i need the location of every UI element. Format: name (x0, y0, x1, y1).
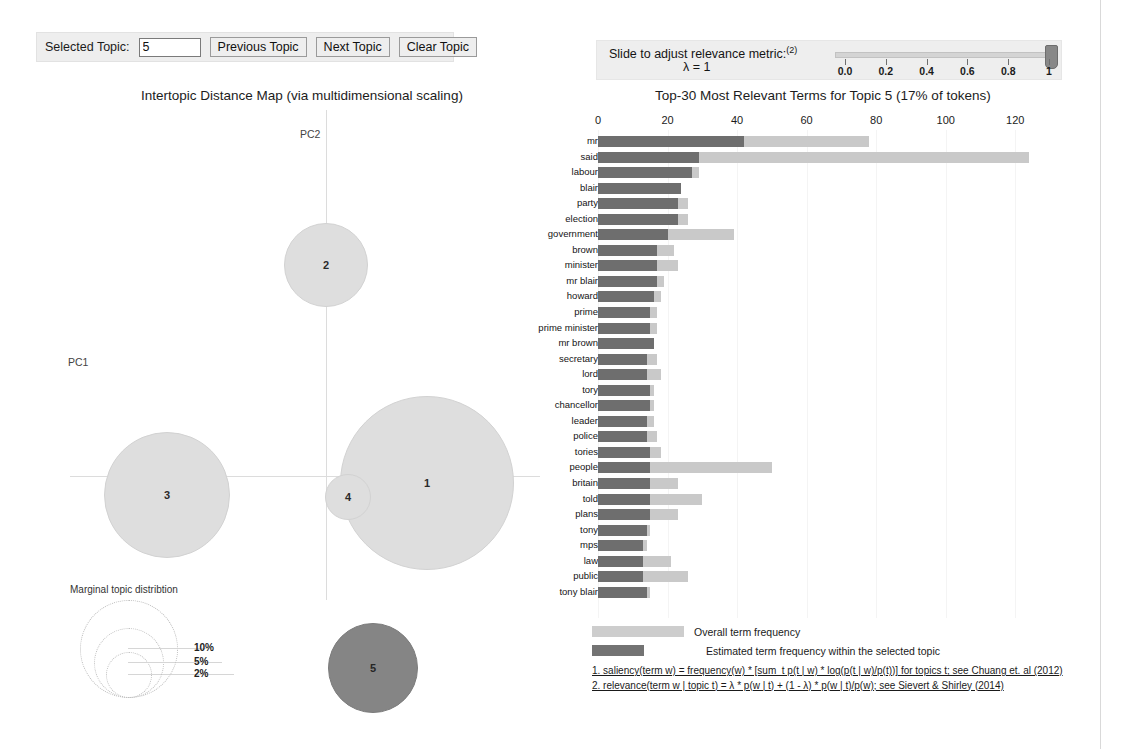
bar-chart-row[interactable]: mr (530, 134, 1090, 150)
term-label[interactable]: labour (458, 166, 598, 177)
bar-topic-frequency (598, 587, 647, 598)
bar-group (598, 431, 1050, 442)
term-label[interactable]: tony blair (458, 586, 598, 597)
term-label[interactable]: minister (458, 259, 598, 270)
legend-item-overall: Overall term frequency (592, 622, 1092, 641)
bar-chart-row[interactable]: tony blair (530, 585, 1090, 601)
pc2-axis-label: PC2 (300, 128, 320, 140)
bar-topic-frequency (598, 525, 647, 536)
bar-group (598, 462, 1050, 473)
bar-chart-row[interactable]: brown (530, 243, 1090, 259)
bar-chart-row[interactable]: mps (530, 538, 1090, 554)
bar-chart-row[interactable]: plans (530, 507, 1090, 523)
term-label[interactable]: britain (458, 477, 598, 488)
term-label[interactable]: prime (458, 306, 598, 317)
topic-bubble-2[interactable]: 2 (284, 223, 368, 307)
legend-label-selected: Estimated term frequency within the sele… (706, 645, 940, 657)
term-label[interactable]: lord (458, 368, 598, 379)
bar-chart-x-tick-label: 120 (1006, 114, 1024, 126)
bar-chart-row[interactable]: public (530, 569, 1090, 585)
bar-chart-x-tick-label: 20 (661, 114, 673, 126)
bar-chart-row[interactable]: told (530, 492, 1090, 508)
bar-topic-frequency (598, 369, 647, 380)
bar-chart-row[interactable]: lord (530, 367, 1090, 383)
bar-group (598, 214, 1050, 225)
marginal-legend-label: 2% (194, 668, 208, 679)
bar-chart-row[interactable]: tory (530, 383, 1090, 399)
bar-chart-row[interactable]: howard (530, 289, 1090, 305)
bar-chart-x-tick-label: 100 (937, 114, 955, 126)
previous-topic-button[interactable]: Previous Topic (210, 37, 307, 57)
bar-group (598, 587, 1050, 598)
panel-divider (1100, 0, 1101, 749)
bar-topic-frequency (598, 198, 678, 209)
term-label[interactable]: police (458, 430, 598, 441)
bar-group (598, 494, 1050, 505)
bar-chart-row[interactable]: secretary (530, 352, 1090, 368)
term-label[interactable]: mr (458, 135, 598, 146)
next-topic-button[interactable]: Next Topic (316, 37, 390, 57)
term-label[interactable]: leader (458, 415, 598, 426)
term-label[interactable]: prime minister (458, 322, 598, 333)
saliency-formula-note[interactable]: 1. saliency(term w) = frequency(w) * [su… (592, 664, 1063, 679)
bar-topic-frequency (598, 167, 692, 178)
bar-chart-row[interactable]: prime (530, 305, 1090, 321)
term-label[interactable]: party (458, 197, 598, 208)
term-label[interactable]: public (458, 570, 598, 581)
bar-group (598, 276, 1050, 287)
bar-chart-row[interactable]: chancellor (530, 398, 1090, 414)
term-label[interactable]: government (458, 228, 598, 239)
bar-group (598, 229, 1050, 240)
term-label[interactable]: told (458, 493, 598, 504)
relevance-slider-track[interactable] (835, 52, 1051, 58)
bar-chart-row[interactable]: britain (530, 476, 1090, 492)
bar-topic-frequency (598, 354, 647, 365)
bar-topic-frequency (598, 323, 650, 334)
term-label[interactable]: tories (458, 446, 598, 457)
relevance-formula-note[interactable]: 2. relevance(term w | topic t) = λ * p(w… (592, 679, 1063, 694)
bar-chart-row[interactable]: minister (530, 258, 1090, 274)
bar-chart-row[interactable]: prime minister (530, 321, 1090, 337)
term-label[interactable]: tony (458, 524, 598, 535)
bar-chart-row[interactable]: leader (530, 414, 1090, 430)
bar-topic-frequency (598, 556, 643, 567)
term-label[interactable]: secretary (458, 353, 598, 364)
topic-bubble-5[interactable]: 5 (328, 623, 418, 713)
term-label[interactable]: election (458, 213, 598, 224)
bar-topic-frequency (598, 416, 647, 427)
clear-topic-button[interactable]: Clear Topic (399, 37, 477, 57)
bar-chart-row[interactable]: government (530, 227, 1090, 243)
term-label[interactable]: mr blair (458, 275, 598, 286)
term-label[interactable]: plans (458, 508, 598, 519)
term-label[interactable]: tory (458, 384, 598, 395)
bar-chart-row[interactable]: tories (530, 445, 1090, 461)
bar-chart-row[interactable]: police (530, 429, 1090, 445)
intertopic-map-title: Intertopic Distance Map (via multidimens… (141, 88, 463, 103)
slider-tick-label: 1 (1046, 65, 1052, 77)
term-label[interactable]: howard (458, 290, 598, 301)
bar-chart-row[interactable]: party (530, 196, 1090, 212)
bar-topic-frequency (598, 494, 650, 505)
bar-chart-row[interactable]: mr blair (530, 274, 1090, 290)
bar-chart-row[interactable]: tony (530, 523, 1090, 539)
term-label[interactable]: chancellor (458, 399, 598, 410)
topic-bubble-4[interactable]: 4 (325, 474, 371, 520)
term-label[interactable]: people (458, 461, 598, 472)
term-label[interactable]: law (458, 555, 598, 566)
term-label[interactable]: mr brown (458, 337, 598, 348)
bar-topic-frequency (598, 571, 643, 582)
selected-topic-input[interactable] (139, 38, 201, 57)
bar-chart-row[interactable]: election (530, 212, 1090, 228)
bar-chart-row[interactable]: mr brown (530, 336, 1090, 352)
bar-chart-row[interactable]: blair (530, 181, 1090, 197)
bar-chart-row[interactable]: law (530, 554, 1090, 570)
term-label[interactable]: blair (458, 182, 598, 193)
term-label[interactable]: said (458, 151, 598, 162)
bar-chart-row[interactable]: people (530, 460, 1090, 476)
term-label[interactable]: brown (458, 244, 598, 255)
marginal-legend-circle (80, 600, 178, 698)
bar-chart-row[interactable]: labour (530, 165, 1090, 181)
term-label[interactable]: mps (458, 539, 598, 550)
topic-bubble-3[interactable]: 3 (104, 432, 230, 558)
bar-chart-row[interactable]: said (530, 150, 1090, 166)
